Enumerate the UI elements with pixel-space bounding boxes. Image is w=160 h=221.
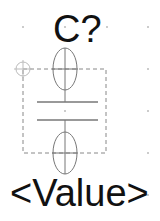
grid-dots	[22, 26, 149, 196]
bottom-pin-icon[interactable]	[52, 120, 78, 174]
origin-pin-icon[interactable]	[14, 60, 32, 78]
capacitor-symbol-icon	[37, 102, 98, 120]
component-value-label[interactable]: <Value>	[10, 174, 149, 212]
top-pin-icon[interactable]	[52, 48, 78, 102]
reference-designator-label[interactable]: C?	[53, 10, 102, 48]
